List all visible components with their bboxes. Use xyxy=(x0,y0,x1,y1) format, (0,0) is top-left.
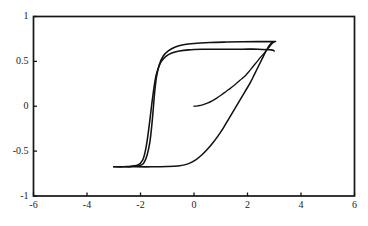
y-tick-label: -0.5 xyxy=(13,145,29,156)
y-tick-label: 0.5 xyxy=(16,55,29,66)
y-tick-label: 0 xyxy=(24,100,29,111)
x-tick-label: 2 xyxy=(245,199,250,210)
y-tick-label: 1 xyxy=(24,10,29,21)
hysteresis-plot: -1-0.500.51 -6-4-20246 xyxy=(0,0,368,226)
x-tick-label: -6 xyxy=(29,199,37,210)
x-tick-label: 6 xyxy=(352,199,357,210)
x-tick-label: 4 xyxy=(299,199,304,210)
x-tick-label: -4 xyxy=(83,199,91,210)
figure-container: -1-0.500.51 -6-4-20246 xyxy=(0,0,368,226)
y-tick-label: -1 xyxy=(20,190,28,201)
x-tick-label: -2 xyxy=(136,199,144,210)
plot-background xyxy=(0,0,368,226)
x-tick-label: 0 xyxy=(192,199,197,210)
